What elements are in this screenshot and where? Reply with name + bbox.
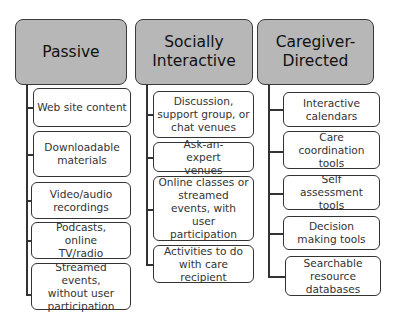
node-video-audio-recordings: Video/audio recordings bbox=[31, 182, 131, 219]
node-label: Searchable resource databases bbox=[287, 257, 379, 296]
connector-caregiver-trunk bbox=[268, 85, 270, 277]
node-label: Downloadable materials bbox=[44, 141, 119, 167]
header-caregiver-directed: Caregiver-Directed bbox=[257, 19, 374, 85]
node-label: Self assessment tools bbox=[292, 173, 371, 212]
node-decision-making: Decision making tools bbox=[283, 216, 380, 250]
node-discussion: Discussion, support group, or chat venue… bbox=[153, 91, 254, 138]
connector-caregiver-2 bbox=[268, 151, 284, 153]
node-care-coordination: Care coordination tools bbox=[283, 131, 380, 169]
node-label: Online classes or streamed events, with … bbox=[158, 176, 249, 241]
node-label: Care coordination tools bbox=[287, 131, 376, 170]
node-label: Web site content bbox=[37, 101, 127, 114]
node-online-classes: Online classes or streamed events, with … bbox=[153, 176, 254, 241]
header-caregiver-directed-label: Caregiver-Directed bbox=[276, 33, 356, 71]
node-interactive-calendars: Interactive calendars bbox=[283, 92, 380, 127]
node-label: Discussion, support group, or chat venue… bbox=[156, 95, 251, 134]
node-activities: Activities to do with care recipient bbox=[153, 245, 254, 283]
connector-caregiver-5 bbox=[268, 276, 286, 278]
node-label: Podcasts, online TV/radio bbox=[44, 221, 118, 260]
node-label: Streamed events, without user participat… bbox=[42, 261, 120, 313]
node-label: Video/audio recordings bbox=[50, 188, 113, 214]
connector-caregiver-3 bbox=[268, 193, 284, 195]
connector-caregiver-4 bbox=[268, 233, 284, 235]
node-label: Activities to do with care recipient bbox=[155, 245, 252, 284]
node-label: Decision making tools bbox=[289, 220, 374, 246]
node-web-site-content: Web site content bbox=[33, 88, 131, 127]
node-label: Interactive calendars bbox=[298, 97, 365, 123]
connector-social-trunk bbox=[146, 85, 148, 265]
node-self-assessment: Self assessment tools bbox=[283, 175, 380, 210]
header-passive: Passive bbox=[15, 19, 127, 85]
header-socially-interactive-label: Socially Interactive bbox=[152, 33, 235, 71]
node-downloadable-materials: Downloadable materials bbox=[33, 131, 131, 177]
node-streamed-events-without: Streamed events, without user participat… bbox=[31, 263, 131, 310]
node-searchable-databases: Searchable resource databases bbox=[285, 256, 381, 296]
node-podcasts: Podcasts, online TV/radio bbox=[31, 222, 131, 259]
connector-passive-trunk bbox=[26, 85, 28, 295]
connector-caregiver-1 bbox=[268, 109, 284, 111]
header-socially-interactive: Socially Interactive bbox=[135, 19, 253, 85]
node-ask-an-expert: Ask-an-expert venues bbox=[153, 142, 254, 172]
header-passive-label: Passive bbox=[42, 43, 99, 62]
node-label: Ask-an-expert venues bbox=[168, 138, 239, 177]
